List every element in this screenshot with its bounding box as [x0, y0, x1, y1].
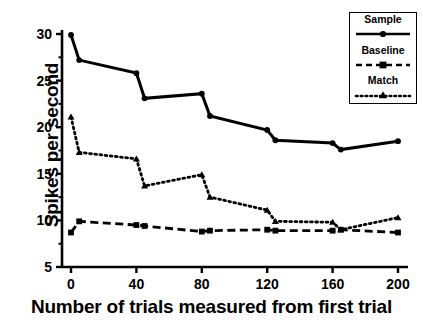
legend-swatch-sample — [350, 26, 416, 42]
data-point-marker — [199, 91, 205, 97]
data-point-marker — [206, 194, 213, 200]
data-point-marker — [264, 127, 270, 133]
data-point-marker — [272, 228, 278, 234]
data-point-marker — [330, 228, 336, 234]
data-point-marker — [76, 218, 82, 224]
legend-swatch-match — [350, 87, 416, 103]
legend-entry-sample[interactable]: Sample — [350, 13, 416, 44]
chart-legend: Sample Baseline Match — [349, 12, 417, 104]
x-tick-label: 120 — [256, 276, 279, 292]
x-tick-label: 40 — [129, 276, 145, 292]
y-tick-label: 20 — [24, 119, 52, 135]
x-tick-label: 160 — [321, 276, 344, 292]
data-point-marker — [76, 57, 82, 63]
y-tick-label: 15 — [24, 166, 52, 182]
x-tick-label: 0 — [67, 276, 75, 292]
data-point-marker — [207, 113, 213, 119]
data-point-marker — [272, 137, 278, 143]
data-point-marker — [142, 95, 148, 101]
x-tick-label: 80 — [194, 276, 210, 292]
data-point-marker — [68, 32, 74, 38]
x-axis-title: Number of trials measured from first tri… — [0, 296, 423, 318]
figure-container: Spikes per second Number of trials measu… — [0, 0, 423, 330]
data-point-marker — [134, 70, 140, 76]
legend-label-match: Match — [350, 74, 416, 87]
y-tick-label: 5 — [24, 259, 52, 275]
legend-swatch-baseline — [350, 57, 416, 73]
y-tick-label: 10 — [24, 212, 52, 228]
caption-fragment — [0, 316, 423, 330]
data-point-marker — [207, 228, 213, 234]
data-point-marker — [134, 222, 140, 228]
data-point-marker — [68, 114, 75, 120]
data-point-marker — [338, 147, 344, 153]
data-point-marker — [199, 229, 205, 235]
legend-entry-baseline[interactable]: Baseline — [350, 44, 416, 75]
x-tick-label: 200 — [386, 276, 409, 292]
legend-label-sample: Sample — [350, 13, 416, 26]
data-point-marker — [395, 138, 401, 144]
data-point-marker — [264, 227, 270, 233]
data-point-marker — [330, 140, 336, 146]
legend-entry-match[interactable]: Match — [350, 74, 416, 105]
legend-label-baseline: Baseline — [350, 44, 416, 57]
y-tick-label: 30 — [24, 26, 52, 42]
data-point-marker — [142, 223, 148, 229]
series-match — [68, 114, 402, 233]
data-point-marker — [68, 230, 74, 236]
data-point-marker — [395, 230, 401, 236]
y-tick-label: 25 — [24, 73, 52, 89]
